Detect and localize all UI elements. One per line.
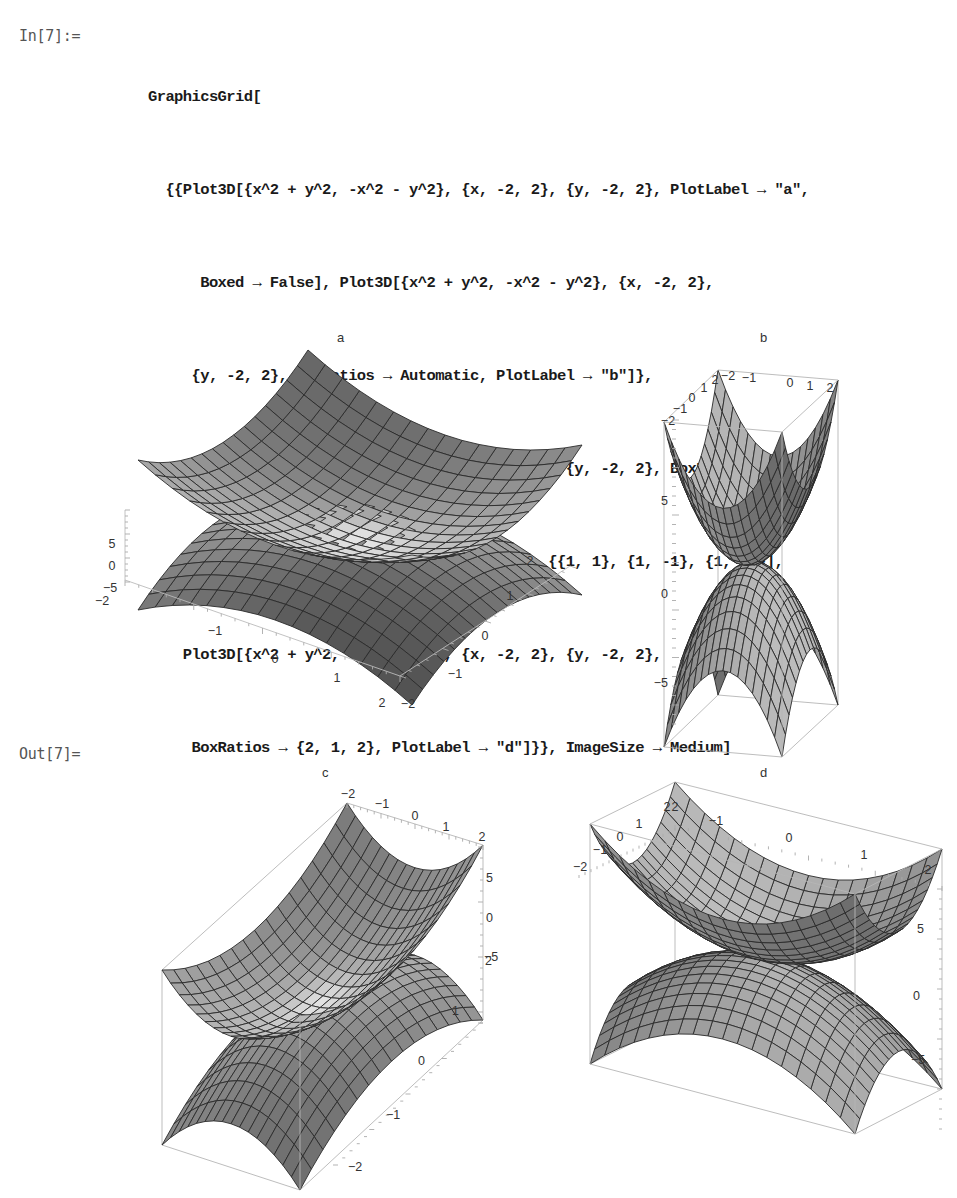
svg-text:−1: −1 [593,843,607,857]
code-line: GraphicsGrid[ [148,82,809,113]
plot-c[interactable]: c −2−1012210−1−250−5 [150,765,520,1195]
plot-a[interactable]: a −2−1012−2−101250−5 [130,330,580,700]
plot-d[interactable]: d 2−1012−2−101250−5 [580,765,950,1195]
svg-text:0: 0 [913,989,920,1003]
svg-text:0: 0 [787,376,794,390]
svg-text:2: 2 [712,373,719,387]
svg-text:−2: −2 [95,594,109,608]
svg-text:−1: −1 [742,371,756,385]
svg-text:2: 2 [925,863,932,877]
code-line: {{Plot3D[{x^2 + y^2, -x^2 - y^2}, {x, -2… [148,175,809,206]
svg-text:−2: −2 [661,414,675,428]
svg-text:2: 2 [527,554,534,568]
svg-text:0: 0 [661,587,668,601]
svg-text:−5: −5 [654,676,668,690]
svg-text:2: 2 [827,381,834,395]
svg-text:0: 0 [617,830,624,844]
svg-text:2: 2 [379,696,386,710]
svg-text:1: 1 [701,381,708,395]
svg-text:−2: −2 [348,1160,362,1174]
plot-d-surface: 2−1012−2−101250−5 [580,765,950,1195]
svg-text:1: 1 [443,820,450,834]
svg-text:0: 0 [109,559,116,573]
svg-text:0: 0 [786,831,793,845]
svg-text:5: 5 [917,922,924,936]
input-cell-label: In[7]:= [19,27,80,45]
svg-text:5: 5 [486,871,493,885]
plot-b[interactable]: b −2−1012−2−101250−5 [660,330,860,725]
svg-text:2: 2 [479,830,486,844]
plot-b-surface: −2−1012−2−101250−5 [660,330,860,725]
svg-text:0: 0 [482,629,489,643]
output-cell-label: Out[7]= [19,745,80,763]
svg-text:−5: −5 [484,950,498,964]
svg-text:0: 0 [486,911,493,925]
svg-text:0: 0 [272,652,279,666]
svg-text:1: 1 [507,589,514,603]
svg-text:−1: −1 [448,667,462,681]
svg-text:−5: −5 [103,581,117,595]
svg-text:2: 2 [664,800,671,814]
code-line: Boxed → False], Plot3D[{x^2 + y^2, -x^2 … [148,268,809,299]
svg-text:−1: −1 [709,814,723,828]
plot-a-title: a [337,330,344,345]
plot-a-surface: −2−1012−2−101250−5 [130,330,580,700]
code-line: BoxRatios → {2, 1, 2}, PlotLabel → "d"]}… [148,733,809,764]
svg-text:−1: −1 [673,402,687,416]
svg-text:−2: −2 [721,369,735,383]
svg-text:1: 1 [334,671,341,685]
svg-text:−1: −1 [375,797,389,811]
svg-text:2: 2 [672,800,679,814]
svg-text:−2: −2 [401,697,415,711]
svg-text:1: 1 [861,848,868,862]
svg-text:−1: −1 [208,624,222,638]
svg-text:1: 1 [452,1004,459,1018]
svg-text:5: 5 [109,537,116,551]
svg-text:1: 1 [807,379,814,393]
svg-text:1: 1 [636,817,643,831]
plot-b-title: b [760,330,767,345]
svg-text:0: 0 [418,1054,425,1068]
svg-text:0: 0 [689,391,696,405]
plot-c-surface: −2−1012210−1−250−5 [150,765,520,1195]
svg-text:5: 5 [661,494,668,508]
svg-text:−5: −5 [911,1053,925,1067]
svg-text:0: 0 [412,809,419,823]
plot-d-title: d [760,765,767,780]
plot-c-title: c [322,765,329,780]
svg-text:−2: −2 [573,860,587,874]
svg-text:−2: −2 [341,787,355,801]
